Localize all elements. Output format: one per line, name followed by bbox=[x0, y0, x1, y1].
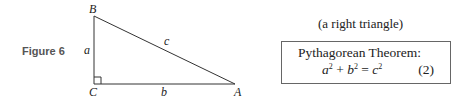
right-triangle-diagram: B C A a b c bbox=[0, 0, 260, 97]
side-c-label: c bbox=[164, 34, 170, 48]
side-a-label: a bbox=[84, 43, 90, 57]
vertex-c-label: C bbox=[89, 85, 98, 97]
vertex-b-label: B bbox=[89, 2, 97, 16]
eq-b: b bbox=[347, 62, 354, 77]
side-b-label: b bbox=[161, 85, 167, 97]
side-c-line bbox=[94, 16, 235, 84]
theorem-box: Pythagorean Theorem: a2 + b2 = c2 (2) bbox=[281, 41, 451, 84]
right-angle-marker bbox=[94, 77, 101, 84]
eq-plus: + bbox=[336, 62, 344, 77]
theorem-title: Pythagorean Theorem: bbox=[298, 45, 421, 61]
triangle-caption: (a right triangle) bbox=[318, 16, 403, 32]
equation-number: (2) bbox=[418, 62, 434, 78]
theorem-equation: a2 + b2 = c2 bbox=[322, 62, 382, 78]
eq-b-exp: 2 bbox=[354, 62, 358, 71]
eq-c-exp: 2 bbox=[378, 62, 382, 71]
vertex-a-label: A bbox=[233, 85, 242, 97]
eq-a-exp: 2 bbox=[329, 62, 333, 71]
triangle-sides bbox=[94, 16, 235, 84]
eq-equals: = bbox=[361, 62, 369, 77]
eq-a: a bbox=[322, 62, 329, 77]
